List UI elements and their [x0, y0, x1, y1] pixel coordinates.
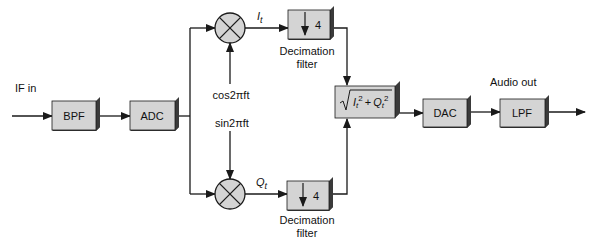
- upper-decimation-label-1: Decimation: [279, 45, 334, 57]
- lpf-block: LPF: [500, 95, 549, 128]
- decimation-factor: 4: [313, 190, 319, 202]
- audio-out-label: Audio out: [490, 76, 536, 88]
- bpf-block: BPF: [52, 97, 100, 131]
- lower-mixer: [215, 179, 245, 209]
- i-signal-label: It: [257, 10, 263, 25]
- dac-block: DAC: [423, 95, 471, 128]
- lower-to-magnitude-arrow: [333, 119, 347, 194]
- lower-decimation-label-2: filter: [297, 227, 318, 239]
- dac-label: DAC: [433, 107, 456, 119]
- decimation-factor: 4: [315, 19, 321, 31]
- magnitude-block: It2+Qt2: [335, 81, 400, 118]
- adc-label: ADC: [140, 110, 163, 122]
- am-demodulator-diagram: IF in BPF ADC cos2πft sin2πft It Qt: [0, 0, 590, 250]
- upper-decimation-filter: 4: [288, 6, 334, 40]
- bpf-label: BPF: [63, 110, 85, 122]
- upper-decimation-label-2: filter: [297, 58, 318, 70]
- lower-decimation-filter: 4: [287, 177, 333, 211]
- q-signal-label: Qt: [256, 176, 268, 191]
- adc-block: ADC: [130, 97, 179, 131]
- upper-mixer: [215, 13, 245, 43]
- if-in-label: IF in: [15, 82, 36, 94]
- cos-label: cos2πft: [213, 89, 250, 101]
- lower-decimation-label-1: Decimation: [279, 214, 334, 226]
- sin-label: sin2πft: [215, 117, 249, 129]
- upper-to-magnitude-arrow: [334, 28, 347, 85]
- lpf-label: LPF: [512, 107, 532, 119]
